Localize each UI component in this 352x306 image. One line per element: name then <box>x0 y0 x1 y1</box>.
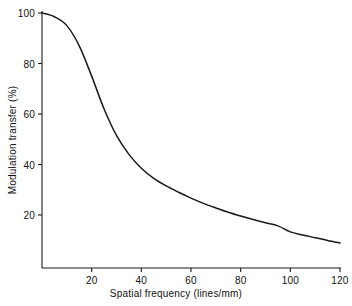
y-axis-tick-label: 80 <box>23 58 35 69</box>
x-axis-tick-label: 20 <box>86 275 98 286</box>
y-axis-tick-label: 20 <box>23 210 35 221</box>
x-axis-tick-label: 40 <box>136 275 148 286</box>
y-axis-tick-label: 40 <box>23 159 35 170</box>
x-axis-ticks <box>92 268 340 272</box>
x-axis-tick-label: 120 <box>331 275 348 286</box>
y-axis-ticks <box>38 13 42 215</box>
x-axis-tick-label: 80 <box>235 275 247 286</box>
x-axis-tick-label: 60 <box>185 275 197 286</box>
y-axis-tick-label: 100 <box>18 8 35 19</box>
mtf-curve-line <box>42 13 340 243</box>
y-axis-title: Modulation transfer (%) <box>7 86 18 195</box>
mtf-chart: 20406080100 20406080100120 Spatial frequ… <box>0 0 352 306</box>
x-axis-tick-label: 100 <box>282 275 299 286</box>
axis-lines <box>42 11 341 268</box>
chart-plot-area <box>0 0 352 306</box>
x-axis-title: Spatial frequency (lines/mm) <box>110 288 242 299</box>
y-axis-tick-label: 60 <box>23 109 35 120</box>
